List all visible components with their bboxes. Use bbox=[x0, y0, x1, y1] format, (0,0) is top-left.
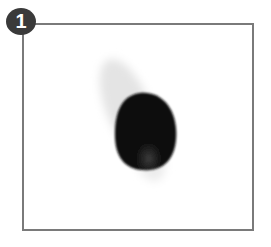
dark-stone-shape bbox=[115, 93, 176, 170]
object-illustration bbox=[0, 0, 271, 247]
step-number-badge: 1 bbox=[6, 8, 36, 35]
